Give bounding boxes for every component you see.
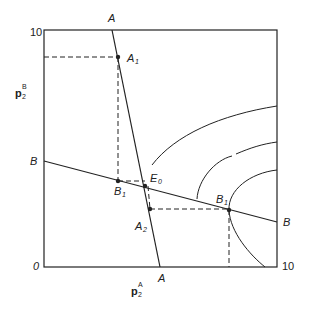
svg-text:B: B [114, 185, 121, 197]
svg-text:1: 1 [224, 199, 228, 206]
svg-text:p: p [131, 285, 138, 297]
point-e0 [143, 184, 147, 188]
reaction-line-b [44, 161, 277, 222]
svg-text:2: 2 [142, 226, 147, 233]
label-b1-right: B 1 [216, 193, 228, 206]
y-max-label: 10 [30, 26, 42, 38]
x-axis-title: p A 2 [131, 281, 143, 298]
point-a2 [148, 207, 152, 211]
line-a-top-label: A [107, 12, 115, 24]
svg-text:B: B [216, 193, 223, 205]
point-a1 [116, 55, 120, 59]
iso-profit-curve-middle [197, 142, 277, 199]
svg-text:p: p [15, 87, 22, 99]
svg-text:2: 2 [138, 291, 142, 298]
svg-text:1: 1 [135, 58, 139, 65]
iso-profit-curve-inner [229, 170, 277, 267]
svg-text:2: 2 [22, 93, 26, 100]
label-a1: A 1 [126, 52, 139, 65]
plot-frame [44, 30, 277, 267]
line-a-bottom-label: A [157, 272, 165, 284]
label-a2: A 2 [134, 220, 147, 233]
label-b1-left: B 1 [114, 185, 126, 198]
line-b-left-label: B [30, 155, 37, 167]
svg-text:B: B [22, 83, 27, 90]
point-b1-right [227, 208, 231, 212]
svg-text:E: E [150, 172, 158, 184]
label-e0: E 0 [150, 172, 162, 185]
reaction-function-diagram: 10 0 10 p B 2 p A 2 A A B B A 1 B 1 E 0 … [0, 0, 312, 313]
svg-text:0: 0 [158, 178, 162, 185]
origin-label: 0 [33, 260, 40, 272]
svg-text:A: A [138, 281, 143, 288]
y-axis-title: p B 2 [15, 83, 27, 100]
svg-text:A: A [134, 220, 142, 232]
x-max-label: 10 [282, 260, 294, 272]
iso-profit-curve-outer [152, 106, 277, 165]
point-b1-left [116, 179, 120, 183]
svg-text:A: A [126, 52, 134, 64]
line-b-right-label: B [283, 216, 290, 228]
dashed-guides [44, 57, 229, 267]
svg-text:1: 1 [122, 191, 126, 198]
